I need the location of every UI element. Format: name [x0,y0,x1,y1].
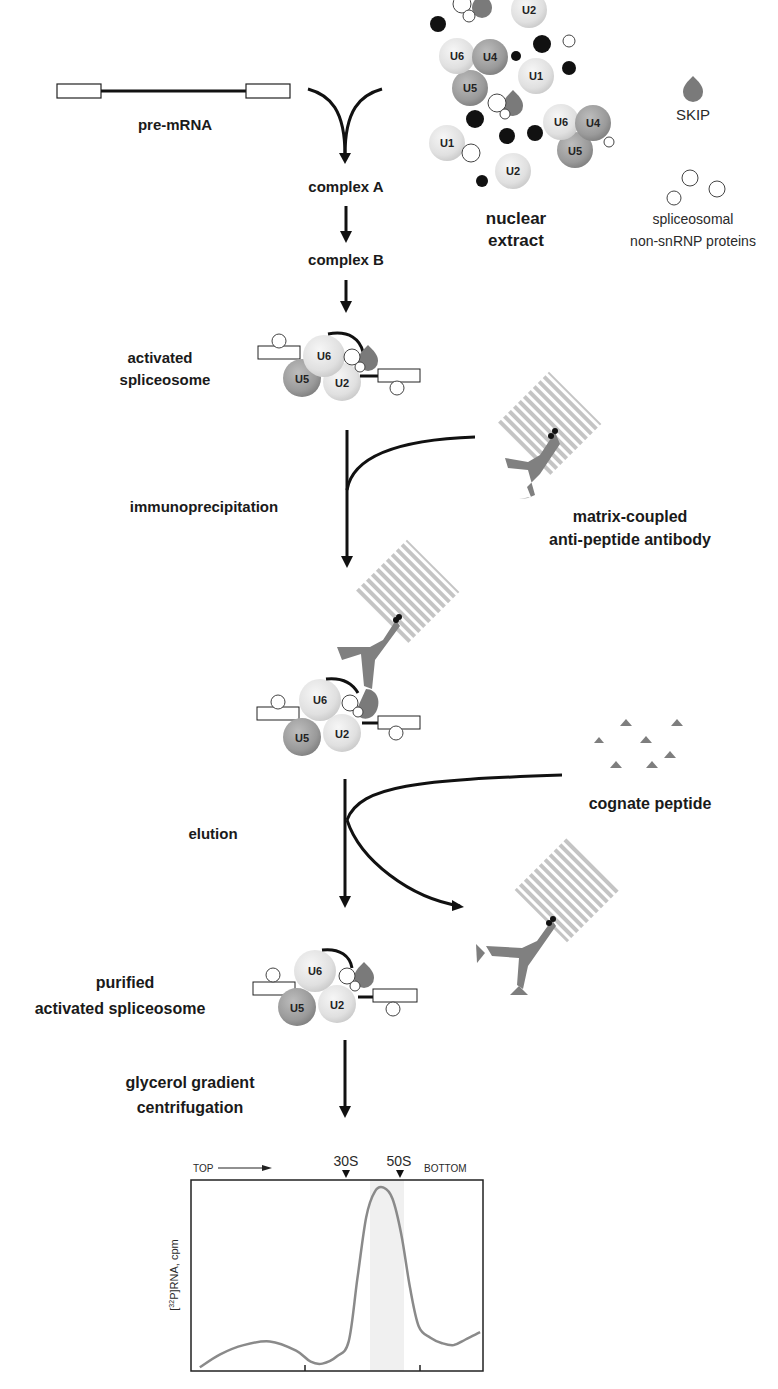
black-dot [476,175,488,187]
protein-circle [462,144,480,162]
svg-text:U6: U6 [317,350,331,362]
black-dot [511,51,521,61]
u6-label: U6 [554,116,568,128]
bottom-label: BOTTOM [424,1163,467,1174]
glycerol-arrow [339,1040,351,1118]
antibody-label-1: matrix-coupled [573,508,688,525]
complex-b-label: complex B [308,251,384,268]
nuclear-label: nuclear [486,209,547,228]
arrow-b-to-activated [340,280,352,313]
svg-text:U6: U6 [308,965,322,977]
black-dot [499,128,515,144]
nuclear-extract-cluster: U2 U6 U4 U5 U1 U6 U4 U5 U1 U2 [429,0,614,189]
antibody-peptide-complex-icon [476,838,619,995]
elution-label: elution [188,825,237,842]
u5-label: U5 [463,82,477,94]
svg-text:[32P]RNA, cpm: [32P]RNA, cpm [168,1239,180,1310]
activated-label-1: activated [127,349,192,366]
u1-label: U1 [529,70,543,82]
u4-label: U4 [586,117,601,129]
non-snrnp-legend-icon [667,170,725,205]
svg-text:U6: U6 [313,694,327,706]
protein-circle [463,10,475,22]
protein-circle [563,35,575,47]
cognate-peptide-icons [594,719,683,768]
pre-mrna-diagram [57,84,290,98]
marker-30s-triangle [342,1170,350,1178]
u5-label: U5 [568,145,582,157]
rna-profile-curve [200,1187,480,1367]
svg-text:U5: U5 [295,373,309,385]
spliceosome-purification-diagram: pre-mRNA complex A complex B U2 U6 U4 U5 [0,0,778,1389]
black-dot [430,16,446,32]
black-dot [533,35,551,53]
purified-label-1: purified [96,974,155,991]
exon-box-right [246,84,290,98]
svg-text:U5: U5 [295,732,309,744]
shaded-peak-region [370,1180,404,1371]
black-dot [562,61,576,75]
top-label: TOP [193,1163,214,1174]
marker-30s-label: 30S [334,1153,359,1169]
svg-text:U2: U2 [330,999,344,1011]
merge-arrow [308,89,382,164]
immunoprecipitation-label: immunoprecipitation [130,498,278,515]
extract-label: extract [488,231,544,250]
purified-spliceosome-icon: U6 U2 U5 [253,950,417,1026]
arrow-a-to-b [340,206,352,243]
black-dot [527,125,543,141]
pre-mrna-label: pre-mRNA [138,116,212,133]
black-dot [466,110,484,128]
u2-label: U2 [522,4,536,16]
marker-50s-triangle [396,1170,404,1178]
complex-a-label: complex A [308,178,383,195]
svg-text:U2: U2 [335,377,349,389]
non-snrnp-label-2: non-snRNP proteins [630,233,756,249]
exon-box-left [57,84,101,98]
skip-legend-icon [683,76,703,102]
glycerol-label-1: glycerol gradient [126,1074,256,1091]
u6-label: U6 [450,50,464,62]
gradient-profile-chart: TOP BOTTOM 30S 50S [32P]RNA, cpm [168,1153,483,1371]
matrix-coupled-antibody-icon [497,372,602,499]
svg-text:U2: U2 [335,728,349,740]
cognate-peptide-label: cognate peptide [589,795,712,812]
glycerol-label-2: centrifugation [137,1099,244,1116]
y-axis-label: [32P]RNA, cpm [168,1239,180,1310]
bound-spliceosome-antibody-icon: U6 U2 U5 [257,540,459,756]
u4-label: U4 [483,51,498,63]
u2-label: U2 [506,165,520,177]
marker-50s-label: 50S [387,1153,412,1169]
u1-label: U1 [440,137,454,149]
non-snrnp-label-1: spliceosomal [653,211,734,227]
protein-circle [500,109,510,119]
skip-legend-label: SKIP [676,106,710,123]
activated-label-2: spliceosome [120,371,211,388]
antibody-label-2: anti-peptide antibody [549,531,711,548]
svg-text:U5: U5 [290,1002,304,1014]
purified-label-2: activated spliceosome [35,1000,206,1017]
activated-spliceosome-icon: U6 U2 U5 [258,333,420,401]
protein-circle [604,137,614,147]
